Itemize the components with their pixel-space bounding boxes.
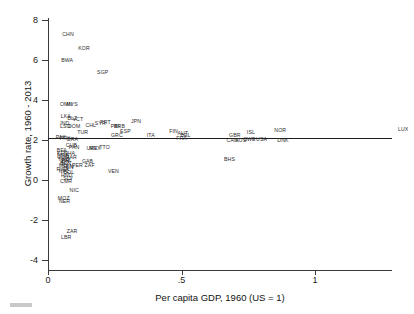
data-point-label: JPN — [131, 120, 141, 125]
data-point-label: NIC — [70, 188, 79, 193]
data-point-label: ZAF — [85, 163, 95, 168]
scan-artifact — [10, 303, 32, 307]
data-point-label: CHN — [62, 32, 74, 37]
data-point-label: ITA — [147, 133, 155, 138]
data-point-label: SWE — [244, 138, 256, 143]
data-point-label: LUX — [398, 127, 408, 132]
data-point-label: NOR — [274, 128, 286, 133]
data-point-label: KOR — [78, 46, 90, 51]
data-points-layer: CHNKORBWASGPOMNMYSLKABLZVCTINDLSODOMCHLS… — [0, 0, 414, 314]
data-point-label: SGP — [97, 70, 108, 75]
data-point-label: PRT — [100, 120, 111, 125]
data-point-label: DNK — [277, 138, 288, 143]
data-point-label: NER — [59, 199, 70, 204]
data-point-label: CMR — [60, 179, 72, 184]
data-point-label: TTO — [99, 146, 110, 151]
data-point-label: TUR — [77, 131, 88, 136]
data-point-label: BHS — [224, 157, 235, 162]
data-point-label: BWA — [61, 58, 73, 63]
data-point-label: GRC — [111, 134, 123, 139]
data-point-label: ISL — [247, 130, 255, 135]
data-point-label: USA — [256, 138, 267, 143]
data-point-label: MYS — [66, 102, 78, 107]
scatter-plot-figure: 86420-2-4 0.511.5 Per capita GDP, 1960 (… — [0, 0, 414, 314]
data-point-label: LBR — [61, 235, 71, 240]
data-point-label: VEN — [108, 169, 119, 174]
data-point-label: FRA — [176, 136, 187, 141]
